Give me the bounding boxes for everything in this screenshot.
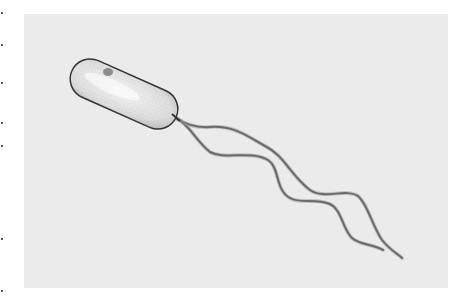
flagellum-upper — [176, 118, 402, 258]
cell-body — [64, 53, 184, 136]
flagella — [176, 118, 402, 258]
nucleoid-spot — [103, 68, 113, 76]
bacterium-illustration — [0, 0, 473, 304]
